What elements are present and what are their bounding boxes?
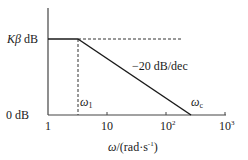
x-tick-label-1000: 103	[219, 120, 235, 132]
omega1-label: ω1	[80, 96, 92, 110]
omegac-label: ωc	[191, 96, 203, 110]
y-label-kbeta: Kβ dB	[7, 33, 38, 45]
y-label-zero: 0 dB	[6, 109, 29, 121]
x-tick-label-100: 102	[160, 120, 176, 132]
bode-plot	[0, 0, 248, 160]
x-tick-label-1: 1	[45, 120, 51, 132]
slope-annotation: −20 dB/dec	[132, 60, 188, 72]
x-tick-label-10: 10	[101, 120, 113, 132]
x-axis-label: ω/(rad·s-1)	[108, 141, 158, 153]
slope-asymptote	[78, 39, 191, 115]
